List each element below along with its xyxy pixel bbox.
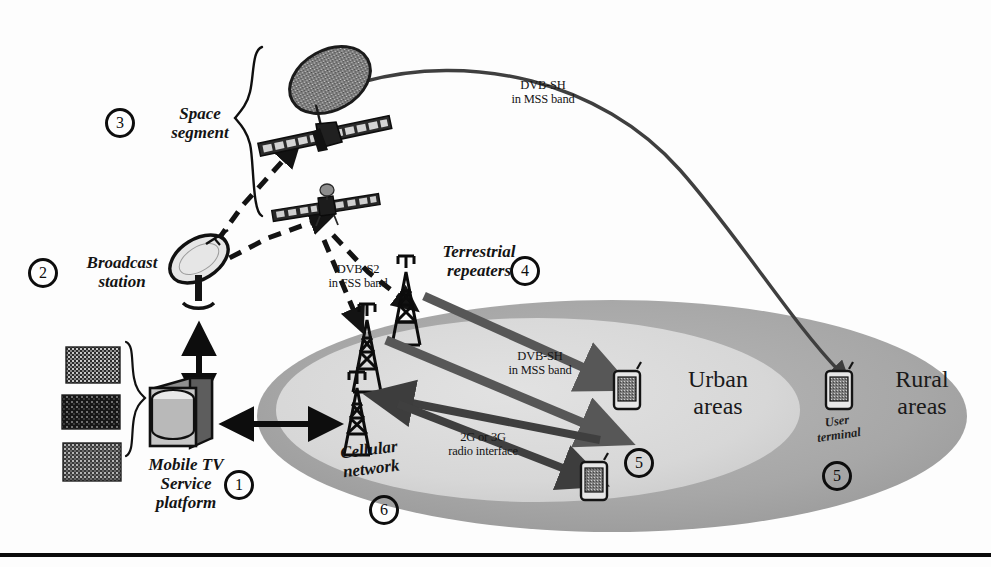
rural-areas-label: Rural areas xyxy=(868,366,976,420)
callout-number-1: 1 xyxy=(224,470,254,500)
network-architecture-diagram: 3 Space segment DVB-SH in MSS band 2 Bro… xyxy=(0,0,991,567)
callout-number-5-urban: 5 xyxy=(624,448,654,478)
tv-content-thumbnail-1 xyxy=(66,347,120,383)
dvb-s2-feeder-link-label: DVB-S2 in FSS band xyxy=(304,262,412,290)
callout-number-4: 4 xyxy=(510,256,540,286)
dvb-sh-repeater-link-label: DVB-SH in MSS band xyxy=(480,349,600,377)
tv-content-thumbnail-2 xyxy=(62,395,120,429)
callout-number-6: 6 xyxy=(369,495,399,525)
cellular-radio-interface-label: 2G or 3G radio interface xyxy=(420,430,546,458)
callout-number-2: 2 xyxy=(28,258,58,288)
space-segment-label: Space segment xyxy=(150,104,250,142)
callout-number-3: 3 xyxy=(105,108,135,138)
dvb-sh-satellite-link-label: DVB-SH in MSS band xyxy=(478,78,608,106)
page-divider-rule xyxy=(0,553,991,557)
callout-number-5-rural: 5 xyxy=(822,461,852,491)
urban-areas-label: Urban areas xyxy=(664,366,772,420)
tv-content-thumbnail-3 xyxy=(63,443,121,481)
broadcast-station-label: Broadcast station xyxy=(66,253,178,291)
